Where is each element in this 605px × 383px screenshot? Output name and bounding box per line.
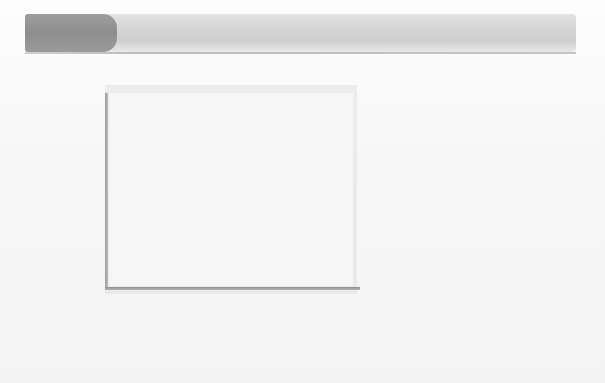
x-axis-line [105, 287, 360, 290]
plot-background [109, 93, 353, 286]
exhibit-figure [0, 0, 605, 383]
exhibit-number-badge [25, 14, 117, 52]
header-underline-rule [25, 52, 576, 54]
chart-region [25, 62, 576, 312]
y-axis-line [105, 93, 108, 289]
